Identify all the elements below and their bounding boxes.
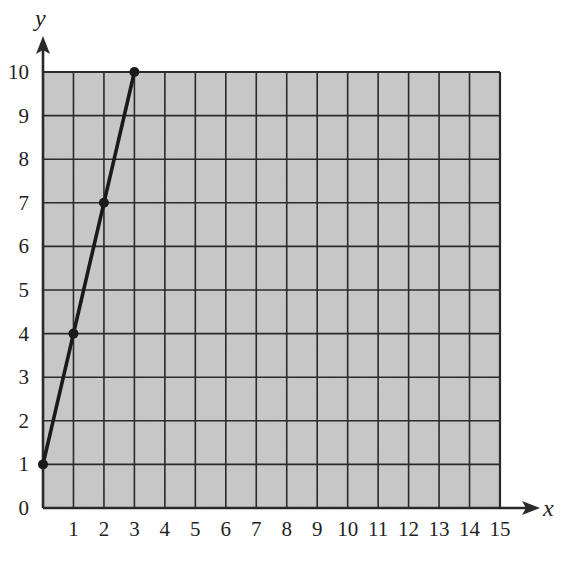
y-axis-label: y <box>33 5 46 31</box>
data-point <box>129 67 139 77</box>
y-tick-label: 3 <box>19 365 30 389</box>
y-tick-label: 4 <box>19 322 30 346</box>
y-tick-labels: 012345678910 <box>8 60 30 520</box>
x-axis-label: x <box>542 495 554 521</box>
y-tick-label: 0 <box>19 496 30 520</box>
data-point <box>68 329 78 339</box>
data-point <box>38 459 48 469</box>
y-tick-label: 6 <box>19 234 30 258</box>
x-tick-label: 3 <box>129 517 140 541</box>
x-tick-label: 11 <box>368 517 388 541</box>
x-tick-label: 12 <box>398 517 419 541</box>
x-tick-label: 13 <box>429 517 450 541</box>
y-tick-label: 9 <box>19 104 30 128</box>
y-tick-label: 1 <box>19 452 30 476</box>
x-tick-label: 10 <box>337 517 358 541</box>
x-tick-label: 7 <box>251 517 262 541</box>
x-tick-label: 1 <box>68 517 79 541</box>
x-tick-label: 8 <box>281 517 292 541</box>
y-tick-label: 7 <box>19 191 30 215</box>
x-tick-label: 14 <box>459 517 481 541</box>
x-tick-label: 15 <box>490 517 511 541</box>
y-tick-label: 10 <box>8 60 29 84</box>
x-tick-labels: 123456789101112131415 <box>68 517 510 541</box>
x-tick-label: 9 <box>312 517 323 541</box>
x-tick-label: 6 <box>221 517 232 541</box>
y-tick-label: 5 <box>19 278 30 302</box>
y-tick-label: 8 <box>19 147 30 171</box>
x-tick-label: 2 <box>99 517 110 541</box>
line-chart: 123456789101112131415 012345678910 x y <box>0 0 562 562</box>
x-tick-label: 5 <box>190 517 201 541</box>
y-tick-label: 2 <box>19 409 30 433</box>
data-point <box>99 198 109 208</box>
x-tick-label: 4 <box>160 517 171 541</box>
